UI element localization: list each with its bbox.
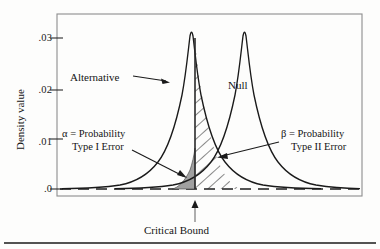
null-curve: [115, 32, 360, 188]
alpha-leader-arrow: [132, 150, 187, 178]
beta-leader-arrow: [217, 142, 279, 159]
alternative-leader-arrow: [133, 76, 170, 84]
figure-container: .03 .02 .01 .0 Density value Alternative…: [0, 0, 380, 249]
chart-vector-layer: [0, 0, 380, 249]
critical-bound-pointer: [192, 200, 199, 222]
beta-region-hatched: [195, 40, 238, 189]
